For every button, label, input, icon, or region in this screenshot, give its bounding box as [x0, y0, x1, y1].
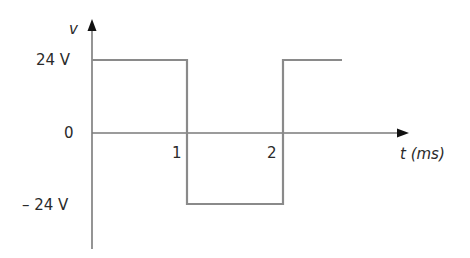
y-tick-0: 0 — [64, 126, 74, 141]
x-tick-2: 2 — [267, 146, 277, 161]
y-axis-arrow-icon — [88, 19, 97, 31]
y-axis-label: v — [69, 22, 78, 37]
x-axis-label: t (ms) — [400, 147, 445, 162]
x-axis-arrow-icon — [397, 129, 409, 138]
y-tick-neg24v: – 24 V — [22, 198, 68, 213]
square-wave-line — [92, 60, 342, 204]
y-tick-24v: 24 V — [36, 53, 70, 68]
x-tick-1: 1 — [172, 146, 182, 161]
